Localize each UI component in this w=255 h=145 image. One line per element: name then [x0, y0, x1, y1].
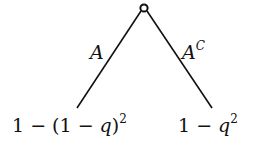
edge-label-left: A	[90, 43, 104, 62]
root-node-icon	[140, 4, 147, 11]
leaf-label-right: 1 − q2	[178, 116, 238, 135]
left-branch	[77, 11, 141, 108]
leaf-label-left: 1 − (1 − q)2	[12, 116, 127, 135]
edge-label-right: AC	[182, 43, 205, 62]
